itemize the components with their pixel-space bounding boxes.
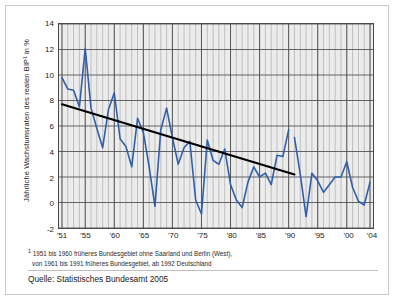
x-tick-label: '75	[197, 231, 207, 240]
y-tick-label: 12	[32, 44, 54, 53]
divider	[28, 270, 378, 271]
footnote-line-2: von 1961 bis 1991 früheres Bundesgebiet,…	[28, 260, 212, 267]
y-tick-label: 0	[32, 199, 54, 208]
y-tick-label: 6	[32, 122, 54, 131]
x-tick-label: '85	[256, 231, 266, 240]
y-tick-label: 14	[32, 19, 54, 28]
x-tick-label: '65	[139, 231, 149, 240]
y-tick-label: -2	[32, 225, 54, 234]
x-tick-label: '90	[285, 231, 295, 240]
x-tick-label: '60	[109, 231, 119, 240]
source-note: Quelle: Statistisches Bundesamt 2005	[28, 274, 168, 284]
chart-footnote: 1 1951 bis 1960 früheres Bundesgebiet oh…	[28, 247, 378, 269]
x-tick-label: '80	[226, 231, 236, 240]
x-tick-label: '00	[343, 231, 353, 240]
y-tick-label: 8	[32, 96, 54, 105]
x-tick-label: '55	[80, 231, 90, 240]
chart-canvas	[59, 24, 373, 228]
plot-area	[58, 23, 374, 229]
y-tick-label: 4	[32, 147, 54, 156]
y-tick-label: 10	[32, 70, 54, 79]
chart-figure: Jährliche Wachstumsraten des realen BIP¹…	[5, 5, 389, 295]
x-tick-label: '04	[367, 231, 377, 240]
x-tick-label: '51	[57, 231, 67, 240]
footnote-marker: 1	[28, 248, 31, 254]
x-tick-label: '70	[168, 231, 178, 240]
footnote-line-1: 1951 bis 1960 früheres Bundesgebiet ohne…	[33, 250, 232, 257]
y-tick-label: 2	[32, 173, 54, 182]
y-axis-tick-labels: -202468101214	[28, 23, 54, 229]
x-tick-label: '95	[314, 231, 324, 240]
x-axis-tick-labels: '51'55'60'65'70'75'80'85'90'95'00'04	[58, 231, 376, 243]
